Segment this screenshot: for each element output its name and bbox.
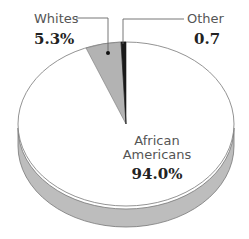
other-leader-line (123, 19, 184, 44)
whites-value: 5.3% (34, 30, 74, 48)
african-americans-label-line1: African (134, 133, 179, 148)
african-americans-label-line2: Americans (123, 147, 192, 162)
african-americans-value: 94.0% (132, 165, 183, 183)
whites-leader-dot (106, 51, 110, 55)
other-value: 0.7 (194, 30, 220, 48)
pie-chart: Whites 5.3% Other 0.7 African Americans … (0, 0, 249, 239)
whites-label: Whites (34, 11, 79, 26)
other-label: Other (187, 11, 225, 26)
